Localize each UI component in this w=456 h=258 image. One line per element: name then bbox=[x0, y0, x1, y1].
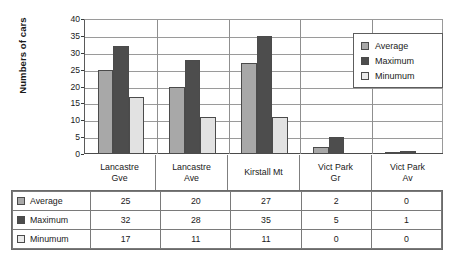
y-tick-label: 0 bbox=[58, 150, 80, 159]
x-axis-category-label: Vict ParkGr bbox=[300, 155, 372, 190]
legend-swatch-minimum-icon bbox=[361, 72, 369, 80]
legend-swatch-average-icon bbox=[361, 42, 369, 50]
table-swatch-icon bbox=[17, 197, 25, 205]
table-cell: 11 bbox=[161, 230, 231, 249]
legend-swatch-maximum-icon bbox=[361, 57, 369, 65]
table-cell: 2 bbox=[301, 192, 371, 211]
bar bbox=[272, 117, 288, 154]
y-tick-label: 5 bbox=[58, 133, 80, 142]
table-row-header: Maximum bbox=[13, 211, 91, 230]
bar bbox=[113, 46, 129, 154]
bar bbox=[129, 97, 145, 154]
table-row-label: Maximum bbox=[30, 215, 68, 225]
bar-group bbox=[98, 20, 145, 154]
legend-item-minimum: Minumum bbox=[354, 68, 442, 83]
table-cell: 32 bbox=[91, 211, 161, 230]
x-axis-category-label: LancastreGve bbox=[84, 155, 156, 190]
table-row-label: Minumum bbox=[30, 234, 69, 244]
y-tick-label: 20 bbox=[58, 82, 80, 91]
legend-item-maximum: Maximum bbox=[354, 53, 442, 68]
legend-label-maximum: Maximum bbox=[375, 56, 414, 66]
bar bbox=[385, 152, 401, 154]
legend-label-average: Average bbox=[375, 41, 408, 51]
bar bbox=[185, 60, 201, 155]
x-axis-category-label: LancastreAve bbox=[156, 155, 228, 190]
table-cell: 17 bbox=[91, 230, 161, 249]
y-axis-title: Numbers of cars bbox=[17, 1, 28, 111]
table-cell: 5 bbox=[301, 211, 371, 230]
bar bbox=[241, 63, 257, 154]
data-table: Average25202720Maximum32283551Minumum171… bbox=[11, 190, 443, 250]
table-swatch-icon bbox=[17, 235, 25, 243]
table-row: Minumum17111100 bbox=[13, 230, 442, 249]
table-cell: 27 bbox=[231, 192, 301, 211]
table-row-header: Average bbox=[13, 192, 91, 211]
chart-figure: Numbers of cars 4035302520151050 Average… bbox=[0, 0, 456, 258]
y-tick-label: 40 bbox=[58, 15, 80, 24]
table-row: Average25202720 bbox=[13, 192, 442, 211]
y-tick-label: 25 bbox=[58, 65, 80, 74]
table-cell: 0 bbox=[301, 230, 371, 249]
table-cell: 1 bbox=[371, 211, 441, 230]
x-axis-category-label: Vict ParkAv bbox=[372, 155, 443, 190]
table-cell: 28 bbox=[161, 211, 231, 230]
table-cell: 35 bbox=[231, 211, 301, 230]
bar bbox=[329, 137, 345, 154]
category-separator bbox=[157, 20, 158, 154]
legend-item-average: Average bbox=[354, 38, 442, 53]
x-axis-category-labels: LancastreGveLancastreAveKirstall MtVict … bbox=[84, 155, 443, 190]
y-tick-label: 35 bbox=[58, 31, 80, 40]
bar-group bbox=[241, 20, 288, 154]
table-cell: 11 bbox=[231, 230, 301, 249]
bar bbox=[200, 117, 216, 154]
table-cell: 25 bbox=[91, 192, 161, 211]
bar bbox=[169, 87, 185, 155]
data-table-body: Average25202720Maximum32283551Minumum171… bbox=[13, 192, 442, 249]
table-cell: 0 bbox=[371, 230, 441, 249]
table-row: Maximum32283551 bbox=[13, 211, 442, 230]
bar bbox=[98, 70, 114, 154]
table-cell: 20 bbox=[161, 192, 231, 211]
x-axis-category-label: Kirstall Mt bbox=[228, 155, 300, 190]
y-tick-label: 10 bbox=[58, 116, 80, 125]
bar bbox=[400, 151, 416, 154]
y-axis-tick-labels: 4035302520151050 bbox=[58, 14, 80, 154]
category-separator bbox=[300, 20, 301, 154]
chart-plot-region: Numbers of cars 4035302520151050 Average… bbox=[0, 0, 456, 190]
table-cell: 0 bbox=[371, 192, 441, 211]
y-tick-label: 15 bbox=[58, 99, 80, 108]
table-row-header: Minumum bbox=[13, 230, 91, 249]
table-row-label: Average bbox=[30, 196, 63, 206]
chart-legend: Average Maximum Minumum bbox=[353, 33, 443, 88]
bar-group bbox=[169, 20, 216, 154]
legend-label-minimum: Minumum bbox=[375, 71, 415, 81]
category-separator bbox=[229, 20, 230, 154]
bar bbox=[257, 36, 273, 154]
table-swatch-icon bbox=[17, 216, 25, 224]
bar bbox=[313, 147, 329, 154]
y-tick-label: 30 bbox=[58, 48, 80, 57]
